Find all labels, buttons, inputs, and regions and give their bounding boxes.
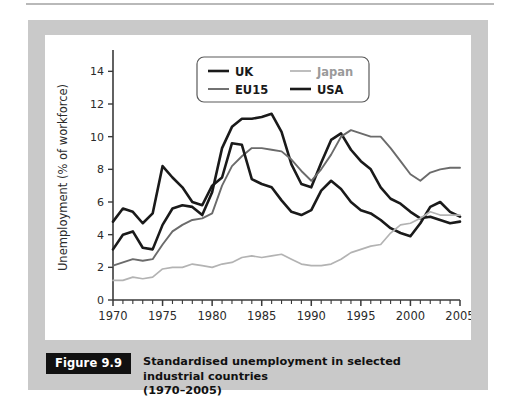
caption-line-2: (1970–2005) [143,384,461,399]
legend-label-uk: UK [235,65,254,79]
figure-page: 0246810121419701975198019851990199520002… [0,0,520,411]
y-axis-tick-label: 8 [97,163,104,176]
y-axis-title: Unemployment (% of workforce) [56,84,70,271]
legend-label-japan: Japan [316,65,353,79]
legend-label-eu15: EU15 [235,83,268,97]
unemployment-line-chart: 0246810121419701975198019851990199520002… [45,35,471,340]
y-axis-tick-label: 4 [97,229,104,242]
y-axis-tick-label: 10 [90,131,104,144]
x-axis-tick-label: 1990 [297,309,326,323]
y-axis-tick-label: 6 [97,196,104,209]
series-line-uk [113,114,460,250]
x-axis-tick-label: 1985 [247,309,276,323]
x-axis-tick-label: 1995 [346,309,375,323]
y-axis-tick-label: 12 [90,98,104,111]
figure-panel: 0246810121419701975198019851990199520002… [28,20,488,390]
x-axis-tick-label: 2000 [396,309,425,323]
x-axis-tick-label: 1975 [148,309,177,323]
x-axis-tick-label: 2005 [445,309,471,323]
x-axis-tick-label: 1970 [98,309,127,323]
legend-label-usa: USA [317,83,344,97]
caption-line-1: Standardised unemployment in selected in… [143,355,461,384]
y-axis-tick-label: 14 [90,65,104,78]
x-axis-tick-label: 1980 [198,309,227,323]
y-axis-tick-label: 0 [97,294,104,307]
page-top-rule [26,3,494,5]
figure-caption-text: Standardised unemployment in selected in… [143,353,461,399]
y-axis-tick-label: 2 [97,261,104,274]
figure-number-tag: Figure 9.9 [46,353,131,374]
figure-caption: Figure 9.9 Standardised unemployment in … [46,353,476,403]
chart-plot-card: 0246810121419701975198019851990199520002… [45,35,471,340]
